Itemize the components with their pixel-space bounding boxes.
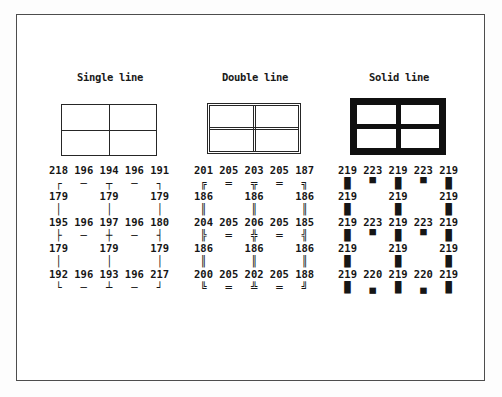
solid-line-table-graphic: [350, 98, 446, 155]
double-line-section: Double line 201 205 203 205 187 ╔ ═ ╦ ═ …: [194, 71, 316, 301]
solid-line-title: Solid line: [338, 71, 460, 83]
single-table-horizontal-divider: [62, 130, 156, 131]
double-line-table-graphic: [207, 103, 301, 154]
double-line-code-grid: 201 205 203 205 187 ╔ ═ ╦ ═ ╗ 186 186 18…: [194, 164, 314, 294]
single-line-code-grid: 218 196 194 196 191 ┌ ─ ┬ ─ ┐ 179 179 17…: [49, 164, 169, 294]
double-line-title: Double line: [194, 71, 316, 83]
single-line-section: Single line 218 196 194 196 191 ┌ ─ ┬ ─ …: [49, 71, 171, 301]
solid-line-section: Solid line 219 223 219 223 219 █ ▀ █ ▀ █…: [338, 71, 460, 301]
single-line-table-graphic: [61, 104, 157, 156]
single-line-title: Single line: [49, 71, 171, 83]
solid-table-horizontal-divider: [357, 124, 439, 129]
page-border-frame: Single line 218 196 194 196 191 ┌ ─ ┬ ─ …: [16, 14, 485, 381]
double-table-horizontal-divider: [210, 127, 298, 130]
solid-line-code-grid: 219 223 219 223 219 █ ▀ █ ▀ █ 219 219 21…: [338, 164, 458, 294]
